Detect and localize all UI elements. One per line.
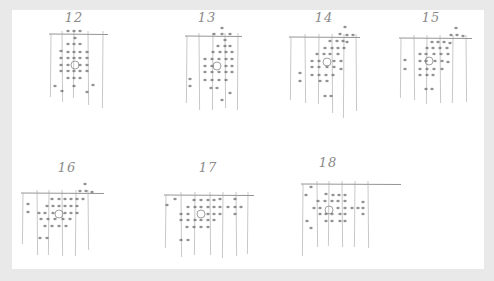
- dot: [330, 47, 333, 50]
- dot: [454, 27, 457, 30]
- dot: [324, 193, 327, 196]
- dot: [403, 59, 406, 62]
- frame-vertical-line: [210, 192, 211, 255]
- dot: [78, 30, 81, 33]
- dot: [85, 57, 88, 60]
- frame-vertical-line: [186, 36, 187, 103]
- dot: [446, 53, 449, 56]
- dot: [186, 213, 189, 216]
- dot: [83, 183, 86, 186]
- dot: [45, 205, 48, 208]
- dot: [66, 43, 69, 46]
- dot: [218, 51, 221, 54]
- dot: [446, 61, 449, 64]
- target-circle-icon: [71, 61, 79, 69]
- dot: [91, 84, 94, 87]
- dot: [59, 50, 62, 53]
- dot: [26, 211, 29, 214]
- dot: [218, 206, 221, 209]
- frame-vertical-line: [332, 34, 333, 113]
- dot: [445, 47, 448, 50]
- dot: [298, 80, 301, 83]
- sketch-16: [21, 183, 104, 256]
- dot: [50, 198, 53, 201]
- dot: [325, 80, 328, 83]
- frame-vertical-line: [225, 33, 226, 108]
- dot: [218, 213, 221, 216]
- frame-vertical-line: [356, 34, 357, 111]
- dot: [233, 206, 236, 209]
- dot: [59, 57, 62, 60]
- dot: [343, 200, 346, 203]
- dot: [179, 239, 182, 242]
- frame-vertical-line: [466, 35, 467, 102]
- dot: [455, 34, 458, 37]
- dot: [220, 27, 223, 30]
- frame-vertical-line: [194, 192, 195, 255]
- sketch-label: 17: [199, 160, 218, 175]
- dot: [431, 74, 434, 77]
- dot: [78, 43, 81, 46]
- dot: [73, 37, 76, 40]
- dot: [199, 206, 202, 209]
- dot: [63, 198, 66, 201]
- dot: [317, 60, 320, 63]
- dot: [179, 213, 182, 216]
- dot: [330, 200, 333, 203]
- dot: [430, 88, 433, 91]
- sketch-14: [289, 26, 360, 118]
- dot: [212, 213, 215, 216]
- dot: [78, 57, 81, 60]
- dot: [418, 74, 421, 77]
- sketch-label: 14: [315, 10, 334, 25]
- dot: [424, 88, 427, 91]
- sketch-label: 12: [65, 10, 84, 25]
- dot: [337, 194, 340, 197]
- dot: [85, 64, 88, 67]
- frame-vertical-line: [62, 190, 63, 256]
- frame-top-line: [185, 36, 242, 37]
- dot: [39, 218, 42, 221]
- dot: [43, 212, 46, 215]
- frame-vertical-line: [237, 33, 238, 110]
- dot: [53, 218, 56, 221]
- dot: [343, 26, 346, 29]
- dot: [440, 60, 443, 63]
- dot: [230, 65, 233, 68]
- dot: [66, 51, 69, 54]
- dot: [72, 85, 75, 88]
- frame-vertical-line: [400, 38, 401, 98]
- dot: [336, 207, 339, 210]
- dot: [305, 220, 308, 223]
- frame-vertical-line: [317, 181, 318, 247]
- sketch-label: 15: [422, 10, 441, 25]
- dot: [230, 51, 233, 54]
- dot: [317, 66, 320, 69]
- frame-vertical-line: [302, 184, 303, 256]
- hand-drawn-sketches: [0, 0, 494, 281]
- dot: [220, 99, 223, 102]
- dot: [318, 213, 321, 216]
- dot: [328, 40, 331, 43]
- dot: [186, 206, 189, 209]
- dot: [343, 194, 346, 197]
- dot: [430, 41, 433, 44]
- dot: [215, 87, 218, 90]
- dot: [345, 34, 348, 37]
- dot: [318, 207, 321, 210]
- frame-vertical-line: [354, 181, 355, 247]
- dot: [75, 205, 78, 208]
- sketch-12: [49, 30, 108, 108]
- dot: [331, 74, 334, 77]
- dot: [51, 212, 54, 215]
- dot: [418, 68, 421, 71]
- sketch-label: 13: [198, 10, 217, 25]
- frame-vertical-line: [73, 31, 74, 98]
- frame-vertical-line: [222, 192, 223, 258]
- frame-vertical-line: [102, 31, 103, 108]
- dot: [317, 74, 320, 77]
- frame-top-line: [49, 34, 108, 35]
- dot: [217, 79, 220, 82]
- dot: [203, 71, 206, 74]
- dot: [38, 237, 41, 240]
